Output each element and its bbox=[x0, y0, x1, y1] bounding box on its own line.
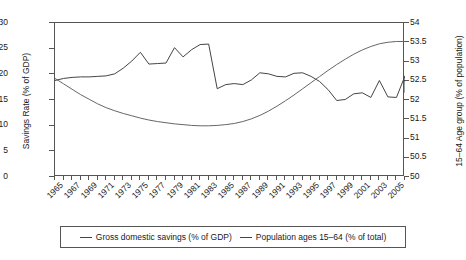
y-axis-left-tick-label: 0 bbox=[0, 172, 8, 181]
legend-label-population: Population ages 15–64 (% of total) bbox=[256, 232, 386, 242]
y-axis-right-tick-label: 53.5 bbox=[410, 37, 450, 46]
legend-item-savings: Gross domestic savings (% of GDP) bbox=[80, 232, 232, 242]
legend-item-population: Population ages 15–64 (% of total) bbox=[240, 232, 386, 242]
y-axis-left-tick-label: 30 bbox=[0, 18, 8, 27]
plot-svg bbox=[55, 23, 405, 177]
plot-area bbox=[54, 22, 404, 176]
legend-swatch-savings bbox=[80, 237, 92, 238]
y-axis-left-tick-label: 20 bbox=[0, 69, 8, 78]
y-axis-right-tick-label: 54 bbox=[410, 18, 450, 27]
legend-label-savings: Gross domestic savings (% of GDP) bbox=[96, 232, 232, 242]
y-axis-right-tick-label: 50.5 bbox=[410, 152, 450, 161]
legend-swatch-population bbox=[240, 237, 252, 238]
chart-legend: Gross domestic savings (% of GDP) Popula… bbox=[60, 226, 406, 248]
y-axis-right-tick-label: 53 bbox=[410, 56, 450, 65]
y-axis-right-tick-label: 52 bbox=[410, 95, 450, 104]
y-axis-left-tick-label: 10 bbox=[0, 120, 8, 129]
chart-figure: Savings Rate (% of GDP) 15–64 Age group … bbox=[0, 0, 466, 260]
y-axis-left-title: Savings Rate (% of GDP) bbox=[21, 21, 31, 181]
y-axis-right-tick-label: 51 bbox=[410, 133, 450, 142]
y-axis-left-tick-label: 5 bbox=[0, 146, 8, 155]
series-gross-domestic-savings-line bbox=[55, 44, 405, 100]
y-axis-right-tick-label: 51.5 bbox=[410, 114, 450, 123]
y-axis-right-tick-label: 50 bbox=[410, 172, 450, 181]
y-axis-right-tick-label: 52.5 bbox=[410, 75, 450, 84]
y-axis-left-tick-label: 25 bbox=[0, 43, 8, 52]
y-axis-right-title: 15–64 Age group (% of population) bbox=[454, 21, 464, 181]
y-axis-left-tick-label: 15 bbox=[0, 95, 8, 104]
